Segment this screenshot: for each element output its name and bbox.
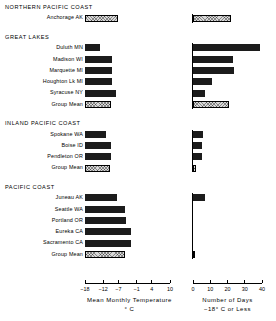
bar-days	[193, 67, 234, 74]
group-header-2: INLAND PACIFIC COAST	[5, 120, 81, 127]
row-label: Group Mean	[52, 101, 83, 108]
bar-days	[193, 44, 260, 51]
row-label: Pendleton OR	[47, 153, 83, 160]
row-label: Group Mean	[52, 251, 83, 258]
axis-tick-days	[227, 280, 228, 283]
bar-temperature	[85, 56, 112, 63]
bar-temperature	[85, 142, 111, 149]
bar-temperature	[85, 78, 112, 85]
bar-days	[193, 78, 212, 85]
bar-temperature	[85, 131, 106, 138]
bar-days	[193, 165, 196, 172]
bar-temperature	[85, 228, 131, 235]
bar-temperature	[85, 217, 126, 224]
bar-temperature	[85, 153, 111, 160]
axis-title-days-line2: −18° C or Less	[158, 305, 276, 313]
group-header-3: PACIFIC COAST	[5, 184, 55, 191]
axis-tick-days	[193, 280, 194, 283]
row-label: Sacramento CA	[43, 239, 83, 246]
bar-temperature	[85, 251, 125, 258]
row-label: Madison WI	[53, 56, 83, 63]
row-label: Marquette MI	[49, 67, 83, 74]
axis-tick-temperature	[136, 280, 137, 283]
group-header-0: NORTHERN PACIFIC COAST	[5, 4, 93, 11]
axis-tick-temperature	[151, 280, 152, 283]
bar-days	[193, 142, 202, 149]
row-label: Houghton Lk MI	[43, 78, 83, 85]
panel-baseline-right-0	[192, 14, 193, 23]
row-label: Boise ID	[61, 142, 83, 149]
row-label: Spokane WA	[50, 131, 83, 138]
bar-days	[193, 194, 205, 201]
bar-temperature	[85, 206, 125, 213]
row-label: Duluth MN	[56, 44, 83, 51]
axis-tick-temperature	[118, 280, 119, 283]
row-label: Juneau AK	[56, 194, 83, 201]
bar-days	[193, 153, 202, 160]
row-label: Portland OR	[52, 217, 83, 224]
chart-figure: NORTHERN PACIFIC COASTAnchorage AKGREAT …	[0, 0, 275, 321]
axis-tick-temperature	[103, 280, 104, 283]
bar-temperature	[85, 101, 111, 108]
bar-days	[193, 131, 203, 138]
bar-days	[193, 251, 195, 258]
group-header-1: GREAT LAKES	[5, 34, 49, 41]
panel-baseline-right-1	[192, 43, 193, 109]
bar-temperature	[85, 240, 131, 247]
bar-temperature	[85, 194, 117, 201]
bar-days	[193, 101, 229, 108]
row-label: Seattle WA	[55, 206, 83, 213]
bar-days	[193, 90, 205, 97]
bar-temperature	[85, 15, 118, 22]
axis-tick-days	[210, 280, 211, 283]
bar-days	[193, 15, 231, 22]
bar-temperature	[85, 165, 110, 172]
axis-line-temperature	[85, 283, 170, 284]
row-label: Group Mean	[52, 164, 83, 171]
axis-tick-days	[262, 280, 263, 283]
axis-tick-temperature	[85, 280, 86, 283]
panel-baseline-right-3	[192, 193, 193, 259]
axis-tick-days	[244, 280, 245, 283]
bar-temperature	[85, 90, 116, 97]
row-label: Syracuse NY	[50, 89, 83, 96]
row-label: Eureka CA	[56, 228, 83, 235]
axis-tick-temperature	[170, 280, 171, 283]
panel-baseline-right-2	[192, 130, 193, 173]
bar-temperature	[85, 67, 112, 74]
axis-tick-label-days: 40	[248, 286, 275, 293]
row-label: Anchorage AK	[47, 14, 83, 21]
bar-days	[193, 56, 233, 63]
axis-title-days-line1: Number of Days	[158, 296, 276, 304]
bar-temperature	[85, 44, 100, 51]
